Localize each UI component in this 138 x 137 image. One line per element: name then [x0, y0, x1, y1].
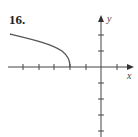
- y-axis-label: y: [106, 13, 112, 24]
- sqrt-curve: [10, 34, 70, 67]
- graph-figure: 16. y x: [0, 0, 138, 137]
- x-axis-label: x: [126, 70, 132, 81]
- y-axis-arrow-icon: [98, 15, 104, 22]
- coordinate-plane: y x: [0, 0, 138, 137]
